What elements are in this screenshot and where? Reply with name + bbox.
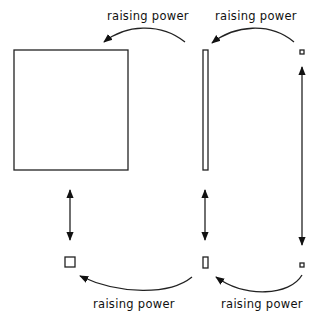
curved-arrow-top-right <box>212 28 294 43</box>
tall-thin-rectangle <box>203 50 208 170</box>
label-top-left: raising power <box>107 9 189 23</box>
diagram-canvas: raising power raising power raising powe… <box>0 0 319 322</box>
small-square-bottom-left <box>65 257 75 267</box>
label-top-right: raising power <box>215 9 297 23</box>
tiny-square-top-right <box>300 50 304 54</box>
label-bottom-right: raising power <box>221 297 303 311</box>
small-rectangle-bottom-middle <box>203 257 208 268</box>
curved-arrow-bottom-right <box>216 275 302 292</box>
large-rectangle <box>14 50 128 170</box>
label-bottom-left: raising power <box>93 297 175 311</box>
tiny-square-bottom-right <box>300 263 304 267</box>
curved-arrow-top-left <box>104 28 185 42</box>
curved-arrow-bottom-left <box>80 276 192 290</box>
